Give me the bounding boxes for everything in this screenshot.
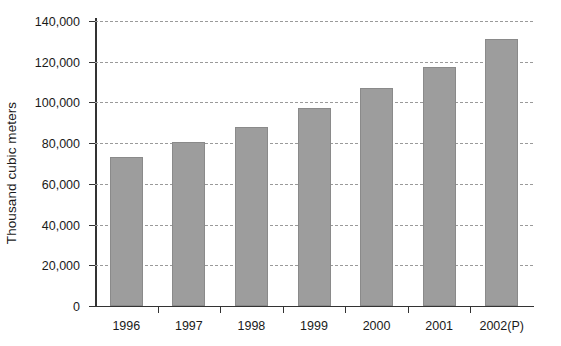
x-axis-tick-label: 2002(P)	[479, 319, 523, 333]
y-axis-tick-label: 40,000	[42, 219, 80, 233]
x-axis-tick	[470, 306, 471, 313]
y-axis-tick-label: 120,000	[35, 56, 80, 70]
y-axis-tick-label: 60,000	[42, 178, 80, 192]
y-axis-tick: 140,000	[89, 21, 95, 22]
y-axis-tick: 20,000	[89, 265, 95, 266]
bar	[172, 142, 205, 306]
plot-area: 020,00040,00060,00080,000100,000120,0001…	[95, 21, 533, 306]
bar	[298, 108, 331, 306]
gridline	[95, 21, 533, 22]
x-axis-tick-label: 1996	[112, 319, 140, 333]
x-axis-tick	[408, 306, 409, 313]
y-axis-tick-label: 140,000	[35, 15, 80, 29]
y-axis-tick: 100,000	[89, 102, 95, 103]
bar	[235, 127, 268, 306]
x-axis-tick-label: 1998	[238, 319, 266, 333]
x-axis-tick-label: 2001	[425, 319, 453, 333]
x-axis-tick-label: 2000	[363, 319, 391, 333]
bar	[110, 157, 143, 306]
y-axis-tick: 80,000	[89, 143, 95, 144]
bar	[360, 88, 393, 306]
bar-chart-figure: Thousand cubic meters 020,00040,00060,00…	[0, 0, 561, 346]
x-axis-tick	[220, 306, 221, 313]
x-axis-tick-label: 1999	[300, 319, 328, 333]
y-axis-tick: 0	[89, 306, 95, 307]
x-axis-tick	[345, 306, 346, 313]
x-axis-tick	[283, 306, 284, 313]
y-axis-tick-label: 0	[73, 300, 80, 314]
y-axis-tick: 40,000	[89, 225, 95, 226]
y-axis-tick: 60,000	[89, 184, 95, 185]
y-axis-title: Thousand cubic meters	[0, 0, 22, 346]
y-axis-tick: 120,000	[89, 62, 95, 63]
y-axis-tick-label: 100,000	[35, 96, 80, 110]
bar	[423, 67, 456, 306]
y-axis-tick-label: 80,000	[42, 137, 80, 151]
bar	[485, 39, 518, 306]
y-axis-tick-label: 20,000	[42, 259, 80, 273]
gridline	[95, 62, 533, 63]
gridline	[95, 102, 533, 103]
x-axis-tick	[158, 306, 159, 313]
x-axis-tick-label: 1997	[175, 319, 203, 333]
